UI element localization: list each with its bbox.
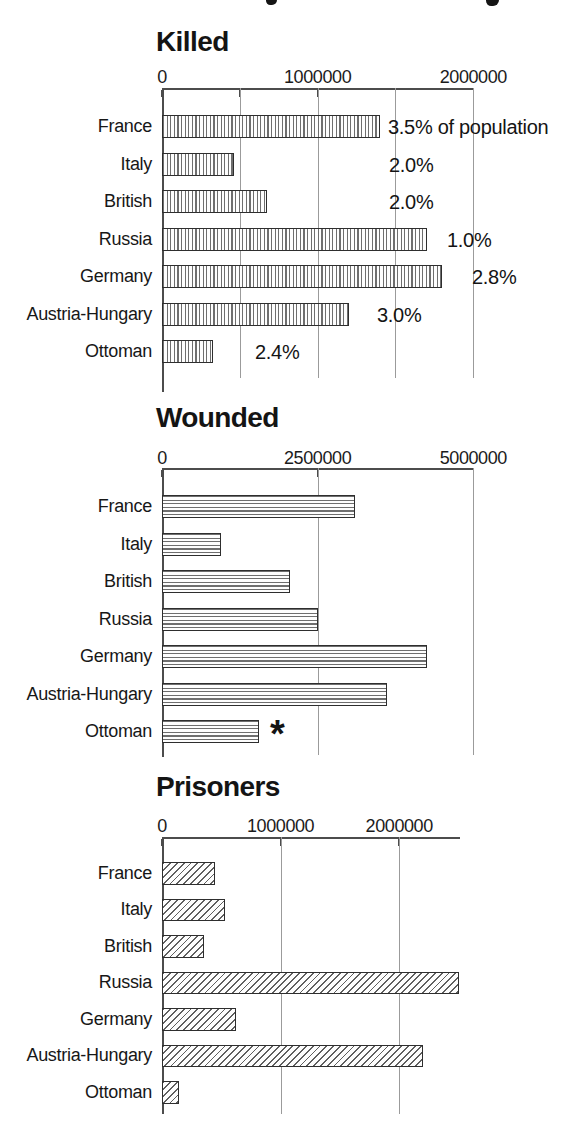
annotation-russia-killed: 1.0% bbox=[447, 229, 491, 251]
annotation-ottoman-killed: 2.4% bbox=[255, 341, 299, 363]
axis-tick-label-prisoners: 1000000 bbox=[247, 817, 314, 835]
annotation-germany-killed: 2.8% bbox=[472, 266, 516, 288]
bar-russia-wounded bbox=[162, 608, 318, 631]
bar-germany-wounded bbox=[162, 645, 427, 668]
axis-tick-label-killed: 2000000 bbox=[440, 68, 507, 86]
row-label-france-prisoners: France bbox=[0, 863, 152, 884]
chart-title-wounded: Wounded bbox=[156, 404, 279, 432]
bar-british-wounded bbox=[162, 570, 290, 593]
row-label-italy-killed: Italy bbox=[0, 154, 152, 175]
cropped-text-descender bbox=[266, 0, 277, 5]
annotation-ottoman-wounded: * bbox=[270, 722, 285, 746]
row-label-austria-hungary-killed: Austria-Hungary bbox=[0, 304, 152, 325]
axis-tick-label-killed: 1000000 bbox=[284, 68, 351, 86]
x-axis-line-prisoners bbox=[162, 837, 460, 839]
row-label-germany-prisoners: Germany bbox=[0, 1009, 152, 1030]
axis-tick-label-wounded: 0 bbox=[157, 449, 167, 467]
row-label-austria-hungary-prisoners: Austria-Hungary bbox=[0, 1045, 152, 1066]
row-label-ottoman-prisoners: Ottoman bbox=[0, 1082, 152, 1103]
row-label-ottoman-killed: Ottoman bbox=[0, 341, 152, 362]
bar-france-killed bbox=[162, 115, 380, 138]
bar-germany-killed bbox=[162, 265, 442, 288]
axis-tick-label-prisoners: 2000000 bbox=[366, 817, 433, 835]
row-label-germany-killed: Germany bbox=[0, 266, 152, 287]
bar-france-prisoners bbox=[162, 862, 215, 885]
row-label-austria-hungary-wounded: Austria-Hungary bbox=[0, 684, 152, 705]
chart-title-prisoners: Prisoners bbox=[156, 773, 280, 801]
axis-tick-label-prisoners: 0 bbox=[157, 817, 167, 835]
annotation-italy-killed: 2.0% bbox=[389, 154, 433, 176]
cropped-text-descender bbox=[486, 0, 499, 6]
axis-tick-label-wounded: 2500000 bbox=[284, 449, 351, 467]
bar-british-killed bbox=[162, 190, 267, 213]
row-label-italy-wounded: Italy bbox=[0, 534, 152, 555]
chart-title-killed: Killed bbox=[156, 28, 229, 56]
axis-tick-label-wounded: 5000000 bbox=[440, 449, 507, 467]
bar-austria-hungary-wounded bbox=[162, 683, 387, 706]
bar-france-wounded bbox=[162, 495, 355, 518]
bar-germany-prisoners bbox=[162, 1008, 236, 1031]
row-label-france-wounded: France bbox=[0, 496, 152, 517]
scanned-casualty-charts-page: Killed Wounded Prisoners 010000002000000… bbox=[0, 0, 587, 1133]
axis-tick-label-killed: 0 bbox=[157, 68, 167, 86]
axis-gridline-wounded bbox=[473, 468, 474, 755]
row-label-ottoman-wounded: Ottoman bbox=[0, 721, 152, 742]
row-label-russia-killed: Russia bbox=[0, 229, 152, 250]
annotation-france-killed: 3.5% of population bbox=[388, 116, 548, 138]
bar-ottoman-killed bbox=[162, 340, 213, 363]
bar-italy-killed bbox=[162, 153, 234, 176]
row-label-british-wounded: British bbox=[0, 571, 152, 592]
bar-russia-prisoners bbox=[162, 972, 459, 995]
axis-tick-killed bbox=[161, 90, 163, 97]
row-label-italy-prisoners: Italy bbox=[0, 899, 152, 920]
annotation-british-killed: 2.0% bbox=[389, 191, 433, 213]
bar-austria-hungary-prisoners bbox=[162, 1045, 423, 1068]
bar-austria-hungary-killed bbox=[162, 303, 349, 326]
bar-british-prisoners bbox=[162, 935, 204, 958]
row-label-russia-wounded: Russia bbox=[0, 609, 152, 630]
row-label-germany-wounded: Germany bbox=[0, 646, 152, 667]
row-label-france-killed: France bbox=[0, 116, 152, 137]
bar-ottoman-wounded bbox=[162, 720, 259, 743]
row-label-british-prisoners: British bbox=[0, 936, 152, 957]
axis-tick-wounded bbox=[161, 470, 163, 477]
annotation-austria-hungary-killed: 3.0% bbox=[377, 304, 421, 326]
axis-tick-prisoners bbox=[161, 839, 163, 846]
row-label-british-killed: British bbox=[0, 191, 152, 212]
bar-russia-killed bbox=[162, 228, 427, 251]
bar-italy-prisoners bbox=[162, 899, 225, 922]
bar-ottoman-prisoners bbox=[162, 1081, 179, 1104]
bar-italy-wounded bbox=[162, 533, 221, 556]
row-label-russia-prisoners: Russia bbox=[0, 972, 152, 993]
